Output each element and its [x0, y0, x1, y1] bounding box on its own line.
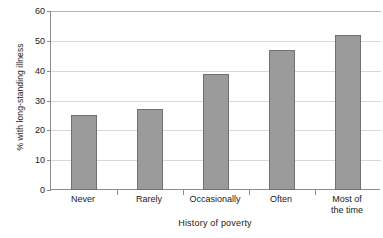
y-tick-label: 60	[35, 6, 45, 16]
bar-slot	[315, 11, 381, 190]
bar-chart: % with long-standing illness 01020304050…	[0, 0, 383, 238]
x-category-label-line: the time	[314, 205, 380, 216]
y-tick-label: 0	[40, 185, 45, 195]
x-category-label: Most ofthe time	[314, 194, 380, 216]
y-tick-label: 50	[35, 36, 45, 46]
y-tick-label: 20	[35, 125, 45, 135]
bar[interactable]	[71, 115, 97, 190]
x-category-label-line: Often	[248, 194, 314, 205]
y-axis-title: % with long-standing illness	[15, 10, 25, 185]
bar-slot	[117, 11, 183, 190]
plot-area: 0102030405060	[50, 11, 380, 190]
bar-slot	[249, 11, 315, 190]
x-category-label-line: Never	[50, 194, 116, 205]
x-category-label: Often	[248, 194, 314, 205]
y-tick-label: 40	[35, 66, 45, 76]
y-tick-label: 10	[35, 155, 45, 165]
bar-slot	[51, 11, 117, 190]
x-category-label: Never	[50, 194, 116, 205]
bar[interactable]	[335, 35, 361, 190]
bar[interactable]	[269, 50, 295, 190]
y-tick-label: 30	[35, 96, 45, 106]
y-tick-mark	[47, 190, 51, 191]
x-axis-title: History of poverty	[50, 218, 380, 228]
x-category-label: Occasionally	[182, 194, 248, 205]
bar[interactable]	[137, 109, 163, 190]
x-category-label-line: Most of	[314, 194, 380, 205]
x-category-label: Rarely	[116, 194, 182, 205]
x-category-label-line: Rarely	[116, 194, 182, 205]
x-category-label-line: Occasionally	[182, 194, 248, 205]
bar-slot	[183, 11, 249, 190]
bars-layer	[51, 11, 381, 190]
bar[interactable]	[203, 74, 229, 190]
